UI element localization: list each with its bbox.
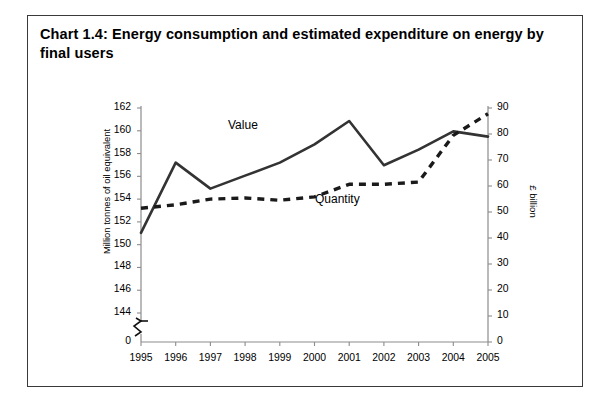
right-axis-tick-label: 70 [497,153,527,164]
bottom-axis-tick-label: 2005 [466,352,510,363]
left-axis-tick-label: 160 [101,124,131,135]
left-axis-tick-label: 148 [101,260,131,271]
value-series-label: Value [228,118,258,132]
left-axis-tick-label: 152 [101,215,131,226]
left-axis-tick-label: 144 [101,306,131,317]
left-axis-tick-label: 146 [101,283,131,294]
right-axis-tick-label: 80 [497,127,527,138]
chart-page: Chart 1.4: Energy consumption and estima… [0,0,614,407]
right-axis-title: £ billion [528,112,539,292]
right-axis-tick-label: 20 [497,283,527,294]
right-axis-tick-label: 30 [497,257,527,268]
left-axis-tick-label: 156 [101,169,131,180]
left-axis-tick-label: 150 [101,238,131,249]
right-axis-tick-label: 40 [497,231,527,242]
left-axis-tick-label: 154 [101,192,131,203]
left-axis-zero-label: 0 [101,335,131,346]
left-axis-tick-label: 162 [101,101,131,112]
right-axis-tick-label: 0 [497,335,527,346]
right-axis-tick-label: 50 [497,205,527,216]
chart-title: Chart 1.4: Energy consumption and estima… [40,25,574,63]
left-axis-tick-label: 158 [101,147,131,158]
quantity-series-label: Quantity [315,192,360,206]
right-axis-tick-label: 90 [497,101,527,112]
right-axis-tick-label: 10 [497,309,527,320]
right-axis-tick-label: 60 [497,179,527,190]
